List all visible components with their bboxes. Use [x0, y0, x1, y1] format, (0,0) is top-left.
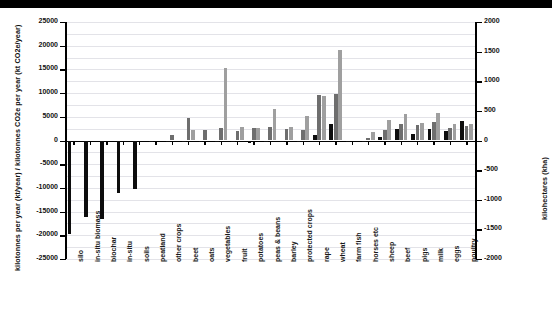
bar — [100, 141, 104, 220]
y-tick-label: 0 — [54, 136, 58, 143]
x-axis-label: silo — [77, 250, 84, 262]
x-tick-mark — [450, 141, 451, 145]
gridline — [66, 176, 475, 177]
bar — [469, 124, 473, 141]
bar — [465, 126, 469, 140]
bar — [84, 141, 88, 218]
x-tick-mark — [106, 141, 107, 145]
x-tick-mark — [401, 141, 402, 145]
bar — [289, 127, 293, 141]
bar — [182, 141, 186, 142]
x-tick-mark — [123, 141, 124, 145]
bar — [301, 130, 305, 141]
bar — [329, 124, 333, 140]
bar — [444, 131, 448, 140]
y2-tick-label: 500 — [484, 106, 496, 113]
x-tick-mark — [417, 141, 418, 145]
y2-tick-label: -1500 — [484, 224, 502, 231]
bar — [268, 127, 272, 140]
x-tick-mark — [270, 141, 271, 145]
x-tick-mark — [155, 141, 156, 145]
bar — [313, 135, 317, 141]
x-tick-mark — [433, 141, 434, 145]
y-tick-label: 5000 — [42, 112, 58, 119]
y-tick-label: -25000 — [36, 254, 58, 261]
bar — [448, 128, 452, 141]
x-tick-mark — [221, 141, 222, 145]
bar — [219, 128, 223, 140]
y2-tick-label: 0 — [484, 136, 488, 143]
x-tick-mark — [286, 141, 287, 145]
window-top-bar — [0, 0, 552, 8]
bar — [346, 141, 350, 142]
bar — [297, 141, 301, 142]
y-tick-label: -5000 — [40, 159, 58, 166]
x-tick-mark — [335, 141, 336, 145]
bar — [460, 121, 464, 140]
y2-tick-label: 1500 — [484, 47, 500, 54]
bar — [133, 141, 137, 189]
bar — [305, 116, 309, 141]
gridline — [66, 58, 475, 59]
x-tick-mark — [303, 141, 304, 145]
x-axis-label: wheat — [339, 242, 346, 262]
x-tick-mark — [90, 141, 91, 145]
bar — [199, 141, 203, 143]
chart-container: kilotonnes per year (kt/year) / kilotonn… — [0, 0, 552, 328]
bar — [224, 68, 228, 140]
axis-line — [65, 22, 67, 259]
y2-tick-mark — [476, 200, 482, 201]
x-axis-labels: siloin-situ biomassbiocharin-situsoilspe… — [66, 262, 475, 328]
x-tick-mark — [319, 141, 320, 145]
bar — [285, 129, 289, 140]
bar — [252, 128, 256, 141]
x-axis-label: farm fish — [355, 232, 362, 262]
y-tick-label: -10000 — [36, 183, 58, 190]
x-tick-mark — [368, 141, 369, 145]
bar — [280, 141, 284, 143]
gridline — [66, 212, 475, 213]
gridline — [66, 164, 475, 165]
x-axis-label: other crops — [175, 223, 182, 262]
gridline — [66, 81, 475, 82]
x-axis-label: oats — [208, 248, 215, 262]
x-axis-label: peatland — [159, 233, 166, 262]
x-axis-label: potatoes — [257, 233, 264, 262]
x-tick-mark — [384, 141, 385, 145]
y2-tick-mark — [476, 111, 482, 112]
bar — [334, 94, 338, 140]
x-axis-label: eggs — [453, 246, 460, 262]
bar — [248, 141, 252, 143]
bar — [432, 122, 436, 140]
x-axis-label: in-situ biomass — [94, 211, 101, 262]
x-axis-label: soils — [143, 246, 150, 262]
y-tick-label: -15000 — [36, 207, 58, 214]
x-axis-label: sheep — [388, 242, 395, 262]
gridline — [66, 22, 475, 23]
bar — [256, 128, 260, 140]
bar — [420, 123, 424, 140]
bar — [117, 141, 121, 193]
bar — [215, 141, 219, 143]
bar — [203, 130, 207, 141]
axis-line — [475, 22, 477, 259]
y2-tick-label: -1000 — [484, 195, 502, 202]
gridline — [66, 117, 475, 118]
gridline — [66, 34, 475, 35]
plot-area — [66, 22, 475, 259]
y2-tick-mark — [476, 141, 482, 142]
y2-tick-mark — [476, 229, 482, 230]
bar — [383, 130, 387, 141]
y-tick-label: -20000 — [36, 230, 58, 237]
x-axis-label: rape — [323, 247, 330, 262]
bar — [428, 129, 432, 140]
bar — [371, 132, 375, 141]
bar — [240, 127, 244, 140]
y2-tick-label: 1000 — [484, 76, 500, 83]
gridline — [66, 188, 475, 189]
x-axis-label: vegetables — [224, 226, 231, 262]
bar — [338, 50, 342, 140]
gridline — [66, 46, 475, 47]
bar — [404, 114, 408, 141]
x-tick-mark — [188, 141, 189, 145]
